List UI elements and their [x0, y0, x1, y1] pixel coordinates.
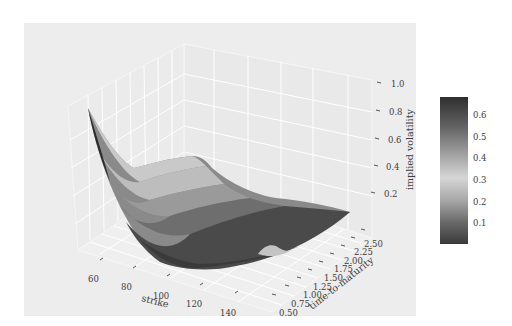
- y-tick-0.50: 0.50: [279, 308, 298, 318]
- colorbar-tick-0.5: 0.5: [473, 132, 487, 142]
- colorbar-gradient: [440, 97, 468, 244]
- x-tick-140: 140: [220, 308, 236, 318]
- x-tick-60: 60: [88, 274, 99, 284]
- colorbar-tick-0.4: 0.4: [473, 153, 487, 163]
- x-tick-120: 120: [186, 299, 202, 309]
- colorbar-tick-0.2: 0.2: [473, 197, 487, 207]
- colorbar-tick-0.6: 0.6: [473, 110, 487, 120]
- z-tick-0.8: 0.8: [389, 107, 403, 117]
- colorbar-tick-0.1: 0.1: [473, 218, 487, 228]
- z-tick-0.6: 0.6: [388, 135, 402, 145]
- colorbar: 0.6 0.5 0.4 0.3 0.2 0.1: [440, 97, 487, 244]
- y-tick-2.50: 2.50: [364, 239, 383, 249]
- volatility-surface-chart: 1.0 0.8 0.6 0.4 0.2 implied volatility 6…: [0, 0, 512, 326]
- z-tick-0.4: 0.4: [386, 162, 400, 172]
- colorbar-tick-0.3: 0.3: [473, 175, 487, 185]
- z-tick-0.2: 0.2: [384, 189, 398, 199]
- z-axis-title: implied volatility: [404, 109, 415, 190]
- x-tick-80: 80: [121, 282, 132, 292]
- z-tick-1.0: 1.0: [391, 79, 405, 89]
